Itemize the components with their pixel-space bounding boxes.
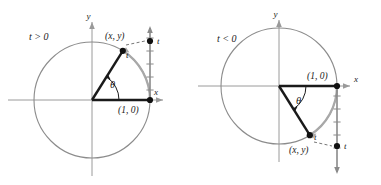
figure-root: t > 0 x y (x, y) t t θ (1, 0) xyxy=(0,0,381,185)
panel-t-positive: t > 0 x y (x, y) t t θ (1, 0) xyxy=(0,0,190,185)
unit-circle-diagram-t-negative: t < 0 x y (1, 0) θ t (x, y) t xyxy=(190,0,380,185)
condition-label: t > 0 xyxy=(29,31,49,42)
angle-label: θ xyxy=(110,79,115,90)
number-line-point-dot xyxy=(334,143,340,149)
dashed-connector xyxy=(314,142,332,146)
unit-circle-diagram-t-positive: t > 0 x y (x, y) t t θ (1, 0) xyxy=(0,0,190,185)
condition-label: t < 0 xyxy=(217,33,237,44)
number-line-vertical xyxy=(333,83,340,174)
y-axis-label: y xyxy=(273,9,278,19)
arc-param-label: t xyxy=(314,132,317,142)
terminal-point-label: (x, y) xyxy=(105,31,125,42)
dashed-connector xyxy=(126,41,145,45)
x-axis-label: x xyxy=(153,87,158,97)
initial-point-label: (1, 0) xyxy=(307,71,328,82)
arc-highlight-t xyxy=(310,86,337,135)
number-line-point-label: t xyxy=(157,36,160,46)
initial-point-dot xyxy=(147,97,153,103)
initial-point-dot xyxy=(334,83,340,89)
terminal-point-dot xyxy=(307,132,313,138)
angle-label: θ xyxy=(296,95,301,106)
terminal-point-label: (x, y) xyxy=(289,145,309,156)
y-axis-label: y xyxy=(86,11,91,21)
number-line-point-dot xyxy=(147,38,153,44)
initial-point-label: (1, 0) xyxy=(118,105,139,116)
panel-t-negative: t < 0 x y (1, 0) θ t (x, y) t xyxy=(190,0,380,185)
terminal-point-dot xyxy=(120,48,126,54)
x-axis-label: x xyxy=(353,74,358,84)
number-line-vertical xyxy=(146,26,153,103)
number-line-point-label: t xyxy=(344,141,347,151)
